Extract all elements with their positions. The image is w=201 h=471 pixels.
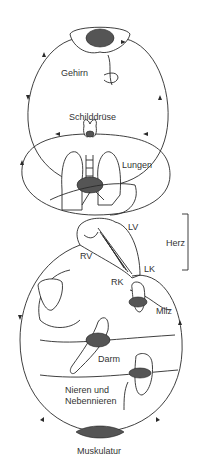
label-right-atrium: RK <box>111 277 124 287</box>
label-muscle: Muskulatur <box>77 446 121 456</box>
label-thyroid: Schilddrüse <box>69 112 116 122</box>
label-kidneys-line2: Nebennieren <box>65 396 117 406</box>
label-brain: Gehirn <box>61 68 88 78</box>
label-spleen: Milz <box>156 306 172 316</box>
intestine <box>70 318 110 374</box>
label-kidneys-line1: Nieren und <box>65 385 109 395</box>
muscle <box>76 426 124 438</box>
label-right-ventricle: RV <box>80 251 92 261</box>
liver <box>38 279 63 310</box>
label-heart: Herz <box>166 238 185 248</box>
kidneys <box>124 354 153 410</box>
label-lungs: Lungen <box>122 160 152 170</box>
label-left-ventricle: LV <box>128 222 138 232</box>
spleen <box>129 282 147 312</box>
label-left-atrium: LK <box>144 264 155 274</box>
label-intestine: Darm <box>98 354 120 364</box>
